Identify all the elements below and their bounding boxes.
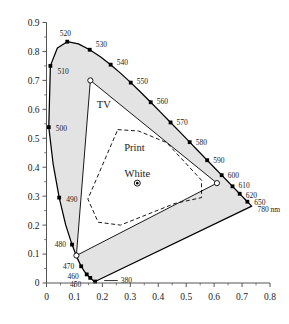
wavelength-label-470: 470	[63, 262, 75, 271]
annotation-white: White	[124, 168, 150, 179]
y-tick-label-0.8: 0.8	[28, 47, 40, 57]
y-tick-label-0.5: 0.5	[28, 134, 40, 144]
wavelength-label-540: 540	[117, 58, 129, 67]
y-tick-label-0.1: 0.1	[28, 249, 40, 259]
wavelength-dot-530	[88, 48, 92, 52]
wavelength-label-560: 560	[157, 97, 169, 106]
wavelength-dot-620	[238, 192, 242, 196]
x-tick-label-0.1: 0.1	[69, 292, 81, 302]
wavelength-dot-510	[48, 64, 52, 68]
annotation-780-nm: 780 nm	[257, 205, 280, 214]
x-tick-label-0.3: 0.3	[124, 292, 136, 302]
wavelength-dot-470	[79, 264, 83, 268]
wavelength-dot-450	[88, 276, 92, 280]
wavelength-label-520: 520	[60, 29, 72, 38]
wavelength-dot-550	[129, 81, 133, 85]
x-tick-label-0.5: 0.5	[180, 292, 192, 302]
y-tick-label-0.9: 0.9	[28, 18, 40, 28]
wavelength-dot-580	[188, 140, 192, 144]
x-tick-label-0: 0	[44, 292, 49, 302]
x-tick-label-0.4: 0.4	[152, 292, 164, 302]
annotation-print: Print	[124, 142, 145, 153]
x-tick-label-0.6: 0.6	[208, 292, 220, 302]
tv-gamut-vertex-0	[88, 78, 93, 83]
wavelength-label-590: 590	[213, 156, 225, 165]
y-tick-label-0.4: 0.4	[28, 163, 40, 173]
wavelength-label-530: 530	[96, 40, 108, 49]
y-tick-label-0.2: 0.2	[28, 221, 40, 231]
wavelength-dot-560	[149, 100, 153, 104]
tv-gamut-vertex-1	[214, 181, 219, 186]
wavelength-dot-610	[231, 184, 235, 188]
wavelength-dot-520	[65, 40, 69, 44]
wavelength-label-580: 580	[196, 138, 208, 147]
wavelength-dot-500	[47, 125, 51, 129]
wavelength-label-460: 460	[67, 272, 79, 281]
wavelength-dot-540	[109, 63, 113, 67]
wavelength-label-550: 550	[137, 77, 149, 86]
wavelength-dot-570	[169, 121, 173, 125]
y-tick-label-0: 0	[35, 278, 40, 288]
wavelength-label-480: 480	[55, 240, 67, 249]
tv-gamut-vertex-2	[74, 253, 79, 258]
wavelength-label-600: 600	[228, 171, 240, 180]
wavelength-dot-650	[245, 200, 249, 204]
wavelength-label-500: 500	[56, 124, 68, 133]
wavelength-dot-460	[85, 273, 89, 277]
y-tick-label-0.7: 0.7	[28, 76, 40, 86]
wavelength-dot-590	[205, 158, 209, 162]
chart-svg: 4504604704804905005105205305405505605705…	[0, 0, 289, 324]
x-tick-label-0.8: 0.8	[264, 292, 276, 302]
wavelength-label-610: 610	[239, 181, 251, 190]
y-tick-label-0.6: 0.6	[28, 105, 40, 115]
wavelength-label-490: 490	[66, 195, 78, 204]
y-tick-label-0.3: 0.3	[28, 192, 40, 202]
wavelength-dot-480	[70, 243, 74, 247]
x-tick-label-0.2: 0.2	[96, 292, 108, 302]
annotation-tv: TV	[97, 99, 111, 110]
wavelength-dot-490	[57, 196, 61, 200]
x-tick-label-0.7: 0.7	[236, 292, 248, 302]
cie-chromaticity-diagram: 4504604704804905005105205305405505605705…	[0, 0, 289, 324]
wavelength-dot-600	[220, 173, 224, 177]
wavelength-label-570: 570	[177, 118, 189, 127]
wavelength-label-510: 510	[57, 67, 69, 76]
